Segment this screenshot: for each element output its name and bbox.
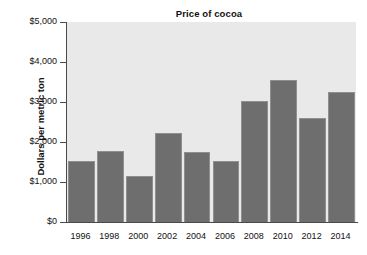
x-tick-label-1998: 1998: [95, 231, 124, 241]
cocoa-price-bar-chart: Price of cocoa Dollars per metric ton $0…: [0, 0, 367, 255]
bar-2000: [126, 176, 153, 222]
x-tick-label-2014: 2014: [326, 231, 355, 241]
y-tick-0: [60, 222, 66, 223]
x-tick-label-2012: 2012: [297, 231, 326, 241]
x-tick-label-2000: 2000: [124, 231, 153, 241]
y-tick-5000: [60, 22, 66, 23]
bar-2002: [155, 133, 182, 222]
bar-2008: [241, 101, 268, 222]
y-tick-label-0: $0: [0, 216, 57, 226]
x-tick-label-2008: 2008: [239, 231, 268, 241]
bar-2006: [213, 161, 240, 222]
x-tick-label-2006: 2006: [211, 231, 240, 241]
chart-title: Price of cocoa: [63, 8, 355, 19]
y-tick-label-2000: $2,000: [0, 136, 57, 146]
bar-1998: [97, 151, 124, 222]
y-tick-label-5000: $5,000: [0, 16, 57, 26]
x-tick-label-2010: 2010: [268, 231, 297, 241]
bar-2004: [184, 152, 211, 222]
y-tick-label-4000: $4,000: [0, 56, 57, 66]
x-tick-label-2002: 2002: [153, 231, 182, 241]
bars-layer: [67, 22, 356, 222]
bar-2012: [299, 118, 326, 222]
y-tick-3000: [60, 102, 66, 103]
y-axis-line: [66, 22, 67, 223]
plot-area: [66, 22, 356, 222]
x-axis-line: [60, 222, 358, 223]
x-tick-label-1996: 1996: [66, 231, 95, 241]
y-tick-label-1000: $1,000: [0, 176, 57, 186]
bar-2014: [328, 92, 355, 222]
y-tick-1000: [60, 182, 66, 183]
y-tick-4000: [60, 62, 66, 63]
bar-1996: [68, 161, 95, 222]
y-tick-2000: [60, 142, 66, 143]
bar-2010: [270, 80, 297, 222]
x-tick-label-2004: 2004: [182, 231, 211, 241]
y-tick-label-3000: $3,000: [0, 96, 57, 106]
